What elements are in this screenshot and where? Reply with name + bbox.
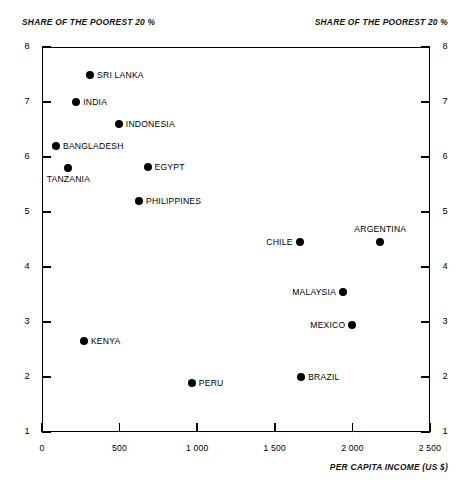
y-tick-r-8 [421, 46, 430, 48]
chart-caption-left: SHARE OF THE POOREST 20 % [22, 17, 155, 27]
y-tick-label-l-4: 4 [18, 262, 36, 271]
x-tick-1500 [274, 423, 276, 432]
data-point-label-chile: CHILE [266, 238, 292, 247]
y-tick-label-r-5: 5 [436, 207, 454, 216]
y-tick-label-r-6: 6 [436, 152, 454, 161]
y-tick-l-6 [42, 156, 51, 158]
data-point-label-indonesia: INDONESIA [126, 120, 175, 129]
y-tick-r-5 [421, 211, 430, 213]
data-point-label-kenya: KENYA [91, 337, 121, 346]
data-point-label-sri-lanka: SRI LANKA [97, 70, 144, 79]
y-tick-label-l-3: 3 [18, 317, 36, 326]
data-point-tanzania[interactable] [64, 164, 72, 172]
x-tick-label-2000: 2 000 [341, 443, 364, 453]
scatter-chart: SHARE OF THE POOREST 20 % SHARE OF THE P… [0, 0, 470, 493]
data-point-kenya[interactable] [80, 337, 88, 345]
x-tick-500 [119, 423, 121, 432]
x-tick-label-500: 500 [112, 443, 127, 453]
data-point-chile[interactable] [296, 238, 304, 246]
data-point-argentina[interactable] [376, 238, 384, 246]
y-tick-l-4 [42, 266, 51, 268]
y-tick-r-7 [421, 101, 430, 103]
data-point-peru[interactable] [188, 379, 196, 387]
y-tick-label-l-6: 6 [18, 152, 36, 161]
data-point-brazil[interactable] [297, 373, 305, 381]
y-tick-l-1 [42, 431, 51, 433]
y-tick-label-r-7: 7 [436, 97, 454, 106]
y-tick-l-7 [42, 101, 51, 103]
y-tick-label-l-5: 5 [18, 207, 36, 216]
x-tick-label-1500: 1 500 [264, 443, 287, 453]
y-tick-label-l-7: 7 [18, 97, 36, 106]
data-point-label-egypt: EGYPT [155, 163, 185, 172]
data-point-egypt[interactable] [144, 163, 152, 171]
data-point-label-argentina: ARGENTINA [354, 226, 406, 235]
x-tick-1000 [196, 423, 198, 432]
y-tick-label-l-1: 1 [18, 427, 36, 436]
data-point-label-malaysia: MALAYSIA [292, 287, 336, 296]
data-point-malaysia[interactable] [339, 288, 347, 296]
chart-caption-right: SHARE OF THE POOREST 20 % [315, 17, 448, 27]
x-tick-label-2500: 2 500 [419, 443, 442, 453]
y-tick-label-l-2: 2 [18, 372, 36, 381]
x-axis-title: PER CAPITA INCOME (US $) [330, 462, 448, 472]
y-tick-l-5 [42, 211, 51, 213]
x-tick-0 [41, 423, 43, 432]
data-point-label-india: INDIA [83, 98, 107, 107]
data-point-label-peru: PERU [199, 378, 224, 387]
data-point-india[interactable] [72, 98, 80, 106]
y-tick-r-3 [421, 321, 430, 323]
y-tick-label-r-8: 8 [436, 42, 454, 51]
data-point-philippines[interactable] [135, 197, 143, 205]
data-point-label-bangladesh: BANGLADESH [63, 142, 124, 151]
y-tick-r-6 [421, 156, 430, 158]
data-point-label-mexico: MEXICO [310, 320, 345, 329]
y-tick-label-r-3: 3 [436, 317, 454, 326]
x-tick-2500 [429, 423, 431, 432]
y-tick-label-r-4: 4 [436, 262, 454, 271]
y-tick-l-3 [42, 321, 51, 323]
y-tick-label-r-1: 1 [436, 427, 454, 436]
data-point-mexico[interactable] [348, 321, 356, 329]
x-tick-2000 [352, 423, 354, 432]
y-tick-l-8 [42, 46, 51, 48]
data-point-sri-lanka[interactable] [86, 71, 94, 79]
data-point-label-philippines: PHILIPPINES [146, 197, 201, 206]
data-point-indonesia[interactable] [115, 120, 123, 128]
y-tick-l-2 [42, 376, 51, 378]
data-point-label-brazil: BRAZIL [308, 373, 339, 382]
y-tick-r-2 [421, 376, 430, 378]
y-tick-r-4 [421, 266, 430, 268]
data-point-label-tanzania: TANZANIA [47, 175, 90, 184]
y-tick-label-l-8: 8 [18, 42, 36, 51]
y-tick-label-r-2: 2 [436, 372, 454, 381]
data-point-bangladesh[interactable] [52, 142, 60, 150]
x-tick-label-1000: 1 000 [186, 443, 209, 453]
x-tick-label-0: 0 [40, 443, 45, 453]
